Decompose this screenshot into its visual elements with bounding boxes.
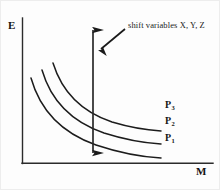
- shift-variables-annotation: shift variables X, Y, Z: [128, 21, 205, 30]
- curve-label-p2-subscript: 2: [172, 120, 175, 127]
- curve-label-p3-subscript: 3: [172, 104, 175, 111]
- curve-label-p1: P1: [165, 133, 174, 143]
- curve-label-p3-base: P: [165, 99, 171, 110]
- curve-label-p2: P2: [165, 116, 174, 126]
- economics-shift-diagram: E M shift variables X, Y, Z P3 P2 P1: [0, 0, 220, 190]
- y-axis-label: E: [8, 20, 15, 31]
- curve-label-p1-subscript: 1: [172, 137, 175, 144]
- annotation-pointer-arrow: [101, 29, 125, 49]
- curve-label-p3: P3: [165, 100, 174, 110]
- curve-label-p1-base: P: [165, 132, 171, 143]
- curve-label-p2-base: P: [165, 115, 171, 126]
- x-axis-label: M: [196, 166, 206, 177]
- curve-p3: [53, 63, 161, 131]
